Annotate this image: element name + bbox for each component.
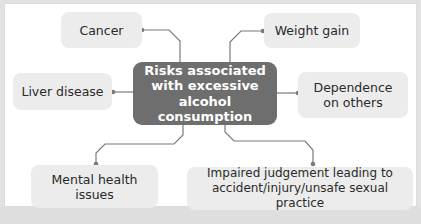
node-mental-health-line-1: Mental health	[52, 172, 138, 187]
node-cancer-label: Cancer	[79, 23, 123, 38]
node-impaired-judgement: Impaired judgement leading to accident/i…	[187, 167, 413, 210]
center-topic: Risks associated with excessive alcohol …	[133, 62, 277, 125]
node-liver-disease-label: Liver disease	[21, 84, 103, 99]
node-dependence-line-1: Dependence	[314, 80, 393, 95]
center-topic-line-2: with excessive	[133, 78, 277, 94]
connector-impaired-judgement	[225, 125, 313, 164]
node-dependence-line-2: on others	[314, 95, 393, 110]
node-mental-health: Mental health issues	[31, 165, 158, 208]
node-impaired-judgement-line-1: Impaired judgement leading to	[187, 166, 413, 181]
center-topic-line-3: alcohol consumption	[133, 94, 277, 125]
node-weight-gain-label: Weight gain	[275, 23, 350, 38]
center-topic-line-1: Risks associated	[133, 63, 277, 79]
node-impaired-judgement-line-2: accident/injury/unsafe sexual practice	[187, 181, 413, 211]
node-mental-health-line-2: issues	[52, 187, 138, 202]
connector-weight-gain	[230, 31, 263, 62]
connector-mental-health	[96, 125, 183, 164]
node-dependence: Dependence on others	[298, 72, 408, 118]
node-weight-gain: Weight gain	[264, 13, 360, 48]
node-cancer: Cancer	[61, 12, 142, 48]
node-liver-disease: Liver disease	[13, 73, 112, 110]
connector-cancer	[142, 30, 180, 62]
